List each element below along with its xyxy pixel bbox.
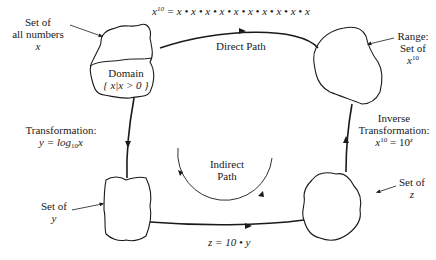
label-set-y: Set of y (36, 200, 72, 224)
pointer-set-y (72, 204, 102, 210)
pointer-range (369, 38, 394, 44)
label-transformation: Transformation: y = log10x (20, 124, 102, 148)
label-set-all-numbers: Set of all numbers x (8, 16, 68, 52)
title-equation: x10 = x • x • x • x • x • x • x • x • x … (152, 5, 310, 17)
label-direct-path: Direct Path (216, 40, 266, 52)
label-domain: Domain { x|x > 0 } (98, 67, 154, 91)
range-blob (314, 27, 382, 104)
domain-divider (90, 58, 152, 66)
label-indirect-path: Indirect Path (205, 158, 249, 182)
label-range: Range: Set of x10 (392, 30, 434, 66)
label-set-z: Set of z (392, 176, 432, 200)
inverse-transformation-arrow (346, 104, 352, 172)
y-to-z-arrow (150, 220, 304, 225)
title-equation-rhs: = x • x • x • x • x • x • x • x • x • x (167, 5, 310, 17)
set-y-blob (104, 177, 151, 241)
label-inverse-transformation: Inverse Transformation: x10 = 10z (354, 112, 434, 148)
label-y-to-z: z = 10 • y (208, 236, 250, 248)
pointer-all-numbers (70, 25, 101, 36)
set-z-blob (303, 173, 361, 240)
transformation-arrow (127, 98, 134, 178)
title-equation-exp: 10 (157, 5, 164, 13)
